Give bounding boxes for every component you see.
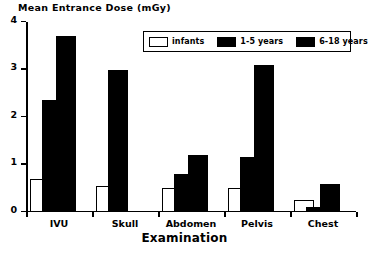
y-axis-tick-label: 3 <box>10 61 17 73</box>
legend-label: 1-5 years <box>240 37 283 47</box>
x-axis-tick <box>92 212 94 217</box>
legend-swatch-icon <box>149 37 168 47</box>
legend-item-1-5-years: 1-5 years <box>217 37 283 47</box>
chart-legend: infants1-5 years6-18 years <box>143 31 351 52</box>
y-axis-tick-label: 2 <box>10 109 17 121</box>
legend-item-infants: infants <box>149 37 204 47</box>
x-axis-label-abdomen: Abdomen <box>158 218 224 230</box>
y-axis-tick-label: 4 <box>10 14 17 26</box>
y-axis-tick: 3 <box>21 68 26 70</box>
x-axis-tick <box>356 212 358 217</box>
legend-item-6-18-years: 6-18 years <box>296 37 368 47</box>
bar-skull-1-5-years <box>108 70 128 213</box>
bar-chest-6-18-years <box>320 184 340 213</box>
x-axis-label-skull: Skull <box>92 218 158 230</box>
legend-swatch-icon <box>296 37 315 47</box>
x-axis-tick <box>290 212 292 217</box>
y-axis-tick-label: 0 <box>10 204 17 216</box>
x-axis-tick <box>158 212 160 217</box>
x-axis-label-chest: Chest <box>290 218 356 230</box>
y-axis-tick: 2 <box>21 116 26 118</box>
bar-abdomen-6-18-years <box>188 155 208 212</box>
x-axis-tick <box>224 212 226 217</box>
y-axis-tick: 4 <box>21 21 26 23</box>
legend-swatch-icon <box>217 37 236 47</box>
x-axis-title: Examination <box>0 231 369 245</box>
legend-label: 6-18 years <box>319 37 368 47</box>
x-axis-tick <box>26 212 28 217</box>
bar-ivu-6-18-years <box>56 36 76 212</box>
bar-pelvis-6-18-years <box>254 65 274 212</box>
bar-chart: Mean Entrance Dose (mGy) 01234 IVUSkullA… <box>0 0 369 256</box>
x-axis-label-pelvis: Pelvis <box>224 218 290 230</box>
y-axis-tick-label: 1 <box>10 156 17 168</box>
legend-label: infants <box>172 37 204 47</box>
y-axis-line <box>26 22 28 212</box>
y-axis-tick: 1 <box>21 163 26 165</box>
x-axis-label-ivu: IVU <box>26 218 92 230</box>
chart-title: Mean Entrance Dose (mGy) <box>18 2 171 14</box>
